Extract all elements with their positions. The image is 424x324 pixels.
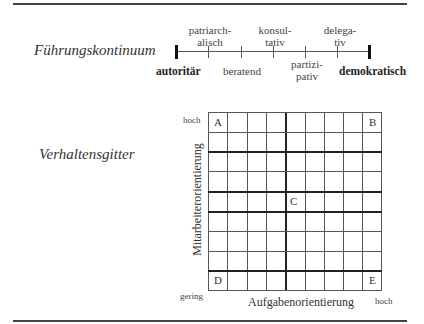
grid-line <box>324 112 325 291</box>
corner-b: B <box>369 116 376 128</box>
grid-line-center <box>285 112 287 291</box>
grid-line <box>227 112 228 291</box>
style-label-line: konsul- <box>245 24 305 36</box>
x-axis-high-label: hoch <box>375 296 393 306</box>
grid-line <box>343 112 344 291</box>
corner-e: E <box>369 274 376 286</box>
grid-line-bold <box>208 151 382 153</box>
style-label-line: delega- <box>310 24 370 36</box>
grid-line <box>208 290 382 291</box>
corner-a: A <box>214 116 222 128</box>
style-label-line: patriarch- <box>180 24 240 36</box>
grid-line <box>305 112 306 291</box>
pole-autoritaer: autoritär <box>156 65 201 77</box>
tick-partizipativ <box>305 46 306 58</box>
style-label-delegativ: delega- tiv <box>310 24 370 48</box>
grid-line-bold <box>208 191 382 193</box>
grid-line <box>208 171 382 172</box>
grid-line <box>208 112 382 113</box>
grid-line <box>266 112 267 291</box>
style-label-line: pativ <box>277 70 337 82</box>
grid-line <box>208 251 382 252</box>
grid-line <box>208 231 382 232</box>
style-label-konsultativ: konsul- tativ <box>245 24 305 48</box>
tick-beratend <box>241 46 242 58</box>
bottom-rule <box>13 320 407 322</box>
grid-line-bold <box>208 211 382 213</box>
continuum-title: Führungskontinuum <box>34 42 156 59</box>
style-label-beratend: beratend <box>212 65 272 77</box>
axis-low-label: gering <box>180 291 203 301</box>
grid-line <box>362 112 363 291</box>
grid-line-bold <box>208 270 382 272</box>
top-rule <box>13 3 407 5</box>
style-label-line: alisch <box>180 36 240 48</box>
style-label-line: tativ <box>245 36 305 48</box>
y-axis-label: Mitarbeiterorientierung <box>190 137 205 263</box>
style-label-line: partizi- <box>277 58 337 70</box>
style-label-patriarchalisch: patriarch- alisch <box>180 24 240 48</box>
grid-line <box>208 132 382 133</box>
center-c: C <box>290 195 297 207</box>
grid-line <box>247 112 248 291</box>
pole-demokratisch: demokratisch <box>339 65 406 77</box>
behavior-grid: A B C D E <box>208 112 382 291</box>
style-label-line: beratend <box>212 65 272 77</box>
style-label-partizipativ: partizi- pativ <box>277 58 337 82</box>
x-axis-label: Aufgabenorientierung <box>248 295 354 310</box>
y-axis-high-label: hoch <box>183 115 201 125</box>
style-label-line: tiv <box>310 36 370 48</box>
left-end-marker <box>175 45 178 59</box>
grid-line <box>208 112 209 291</box>
grid-line <box>381 112 382 291</box>
corner-d: D <box>214 274 222 286</box>
grid-title: Verhaltensgitter <box>39 146 135 163</box>
